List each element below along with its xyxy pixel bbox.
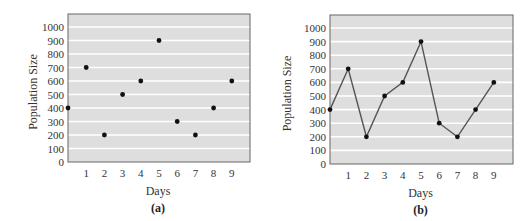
y-tick-label: 300 — [48, 116, 65, 128]
data-point — [193, 133, 198, 138]
chart-caption: (b) — [413, 203, 428, 217]
chart-a: 0100200300400500600700800900100012345678… — [0, 0, 265, 221]
y-tick-label: 1000 — [304, 22, 327, 34]
chart-b-panel: 0100200300400500600700800900100012345678… — [262, 0, 527, 221]
data-point — [229, 79, 234, 84]
x-tick-label: 9 — [229, 167, 235, 179]
x-tick-label: 9 — [491, 169, 497, 181]
x-axis-label: Days — [408, 186, 433, 200]
y-tick-label: 100 — [310, 144, 327, 156]
y-tick-label: 500 — [310, 90, 327, 102]
x-tick-label: 6 — [174, 167, 180, 179]
y-tick-label: 300 — [310, 117, 327, 129]
y-tick-label: 0 — [59, 156, 65, 168]
data-point — [455, 134, 460, 139]
x-tick-label: 4 — [138, 167, 144, 179]
y-tick-label: 0 — [321, 158, 327, 170]
x-axis-label: Days — [146, 184, 171, 198]
data-point — [66, 106, 71, 111]
chart-caption: (a) — [151, 201, 165, 215]
y-tick-label: 700 — [310, 63, 327, 75]
y-tick-label: 200 — [48, 129, 65, 141]
data-point — [138, 79, 143, 84]
x-tick-label: 2 — [364, 169, 370, 181]
y-tick-label: 500 — [48, 89, 65, 101]
data-point — [346, 66, 351, 71]
data-point — [364, 134, 369, 139]
data-point — [102, 133, 107, 138]
y-axis-label: Population Size — [280, 56, 294, 132]
x-tick-label: 4 — [400, 169, 406, 181]
y-tick-label: 400 — [310, 104, 327, 116]
y-tick-label: 600 — [48, 75, 65, 87]
data-point — [328, 107, 333, 112]
y-tick-label: 200 — [310, 131, 327, 143]
data-point — [157, 38, 162, 43]
x-tick-label: 2 — [102, 167, 108, 179]
chart-b: 0100200300400500600700800900100012345678… — [262, 0, 531, 221]
y-tick-label: 1000 — [42, 21, 65, 33]
data-point — [211, 106, 216, 111]
data-point — [419, 39, 424, 44]
data-point — [473, 107, 478, 112]
chart-a-panel: 0100200300400500600700800900100012345678… — [0, 0, 265, 221]
y-axis-label: Population Size — [26, 54, 40, 130]
data-point — [120, 92, 125, 97]
x-tick-label: 5 — [418, 169, 424, 181]
y-tick-label: 700 — [48, 62, 65, 74]
x-tick-label: 8 — [211, 167, 217, 179]
data-point — [175, 119, 180, 124]
y-tick-label: 900 — [48, 35, 65, 47]
y-tick-label: 900 — [310, 36, 327, 48]
x-tick-label: 6 — [436, 169, 442, 181]
x-tick-label: 3 — [120, 167, 126, 179]
y-tick-label: 800 — [310, 49, 327, 61]
data-point — [84, 65, 89, 70]
x-tick-label: 7 — [455, 169, 461, 181]
x-tick-label: 1 — [83, 167, 89, 179]
x-tick-label: 5 — [156, 167, 162, 179]
plot-area — [68, 14, 250, 162]
data-point — [382, 94, 387, 99]
x-tick-label: 8 — [473, 169, 479, 181]
x-tick-label: 7 — [193, 167, 199, 179]
x-tick-label: 1 — [345, 169, 351, 181]
y-tick-label: 600 — [310, 76, 327, 88]
data-point — [491, 80, 496, 85]
y-tick-label: 800 — [48, 48, 65, 60]
plot-area — [330, 15, 513, 164]
y-tick-label: 400 — [48, 102, 65, 114]
data-point — [400, 80, 405, 85]
y-tick-label: 100 — [48, 143, 65, 155]
data-point — [437, 121, 442, 126]
x-tick-label: 3 — [382, 169, 388, 181]
